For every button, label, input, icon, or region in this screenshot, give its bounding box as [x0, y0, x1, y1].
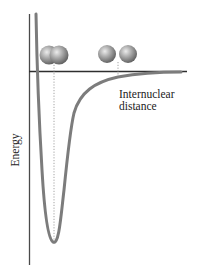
separated-atom-pair	[98, 45, 137, 63]
bonded-atom-pair	[40, 46, 69, 65]
x-axis-label-line2: distance	[119, 100, 157, 112]
x-axis-label-line1: Internuclear	[119, 88, 175, 100]
atom-icon	[50, 46, 69, 65]
atom-icon	[98, 45, 116, 63]
atom-icon	[119, 45, 137, 63]
y-axis-label: Energy	[9, 133, 22, 166]
potential-energy-diagram: Internuclear distance Energy	[0, 0, 202, 275]
